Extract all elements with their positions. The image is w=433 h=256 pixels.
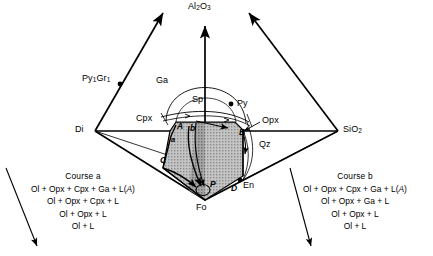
apex-label-di: Di	[75, 125, 84, 134]
py1gr1-point-marker	[118, 82, 123, 87]
point-A-label: A	[177, 122, 183, 131]
point-B-label: B	[239, 128, 245, 137]
point-C-label: C	[160, 156, 166, 165]
enstatite-point-label: En	[243, 181, 254, 190]
point-a-label: a	[171, 136, 175, 144]
diagram-canvas: Al2O3 Di SiO2 Fo Py1Gr1 Py Ga Sp Cpx Opx…	[0, 0, 433, 256]
apex-label-fo: Fo	[196, 203, 207, 212]
apex-label-sio2: SiO2	[343, 125, 362, 135]
course-a-block: Course aOl + Opx + Cpx + Ga + L(A)Ol + O…	[8, 170, 158, 233]
course-b-step: Ol + L	[280, 220, 430, 233]
course-a-step: Ol + L	[8, 220, 158, 233]
course-b-step: Ol + Opx + L	[280, 208, 430, 221]
py-point-label: Py	[237, 99, 248, 108]
py-point-marker	[229, 102, 234, 107]
garnet-field-label: Ga	[156, 76, 168, 85]
course-b-step: Ol + Opx + Cpx + Ga + L(A)	[280, 183, 430, 196]
course-a-step: Ol + Opx + L	[8, 208, 158, 221]
apex-label-al2o3: Al2O3	[188, 2, 211, 12]
point-P-label: P	[210, 180, 216, 189]
course-b-title: Course b	[280, 170, 430, 183]
course-a-step: Ol + Opx + Cpx + L	[8, 195, 158, 208]
quartz-field-label: Qz	[259, 140, 271, 149]
orthopyroxene-field-label: Opx	[262, 116, 279, 125]
clinopyroxene-field-label: Cpx	[136, 114, 152, 123]
point-D-label: D	[231, 184, 237, 193]
en-point-marker	[238, 178, 243, 183]
course-b-block: Course bOl + Opx + Cpx + Ga + L(A)Ol + O…	[280, 170, 430, 233]
course-a-step: Ol + Opx + Cpx + Ga + L(A)	[8, 183, 158, 196]
course-a-title: Course a	[8, 170, 158, 183]
course-b-step: Ol + Opx + Ga + L	[280, 195, 430, 208]
point-b-label: b	[190, 124, 195, 133]
spinel-field-label: Sp	[192, 95, 203, 104]
py1gr1-point-label: Py1Gr1	[82, 74, 110, 84]
